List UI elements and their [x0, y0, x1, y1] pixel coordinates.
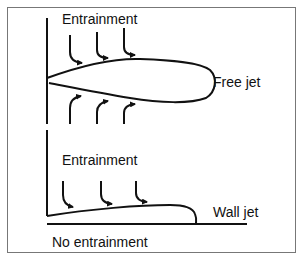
- free-jet-outline: [47, 59, 215, 102]
- entrainment-arrow: [101, 181, 112, 204]
- entrainment-arrow: [70, 35, 82, 63]
- entrainment-bottom-label: Entrainment: [62, 153, 137, 167]
- jet-diagram: [0, 0, 302, 259]
- entrainment-arrow: [97, 101, 108, 124]
- free-jet-label: Free jet: [213, 75, 260, 89]
- entrainment-arrow: [124, 28, 135, 55]
- wall-jet-label: Wall jet: [213, 205, 258, 219]
- no-entrainment-label: No entrainment: [52, 235, 148, 249]
- entrainment-top-label: Entrainment: [62, 12, 137, 26]
- entrainment-arrow: [70, 96, 81, 124]
- entrainment-arrow: [124, 104, 135, 124]
- entrainment-arrow: [136, 181, 147, 202]
- wall-jet-outline: [47, 205, 196, 223]
- entrainment-arrow: [97, 32, 108, 58]
- entrainment-arrow: [63, 181, 73, 207]
